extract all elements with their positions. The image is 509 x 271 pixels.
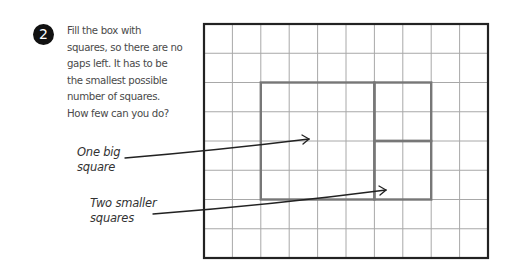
grid-lines <box>204 24 488 258</box>
arrow-to-big-square <box>125 135 309 158</box>
grid-diagram <box>0 0 509 271</box>
